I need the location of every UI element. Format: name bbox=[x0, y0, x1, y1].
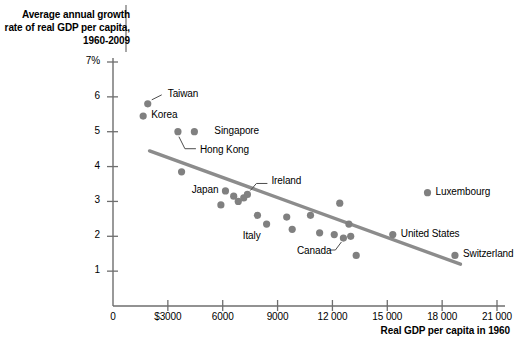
point-label: Ireland bbox=[271, 175, 301, 186]
data-point bbox=[222, 187, 229, 194]
x-tick-label: 12 000 bbox=[302, 311, 362, 322]
data-point bbox=[244, 191, 251, 198]
point-label: Japan bbox=[192, 184, 219, 195]
data-point bbox=[331, 231, 338, 238]
x-tick-label: 0 bbox=[83, 311, 143, 322]
point-label: Singapore bbox=[214, 125, 259, 136]
chart-title: Average annual growth rate of real GDP p… bbox=[4, 8, 130, 47]
data-point bbox=[263, 220, 270, 227]
y-tick-label: 1 bbox=[66, 264, 100, 275]
data-point bbox=[389, 231, 396, 238]
x-tick-label: 6000 bbox=[193, 311, 253, 322]
data-point bbox=[307, 212, 314, 219]
data-point bbox=[140, 112, 147, 119]
data-point bbox=[347, 233, 354, 240]
x-tick-label: 18 000 bbox=[412, 311, 472, 322]
y-tick-label: 2 bbox=[66, 229, 100, 240]
x-tick-label: 9000 bbox=[248, 311, 308, 322]
point-label: Canada bbox=[297, 245, 331, 256]
data-point bbox=[345, 220, 352, 227]
data-point bbox=[289, 226, 296, 233]
point-label: Taiwan bbox=[168, 88, 199, 99]
data-point bbox=[340, 234, 347, 241]
point-label: United States bbox=[401, 228, 460, 239]
data-point bbox=[191, 128, 198, 135]
x-tick-label: $3000 bbox=[138, 311, 198, 322]
point-label: Switzerland bbox=[463, 248, 514, 259]
data-point bbox=[144, 100, 151, 107]
data-point bbox=[353, 252, 360, 259]
y-tick-label: 6 bbox=[66, 90, 100, 101]
scatter-plot bbox=[0, 0, 518, 353]
y-tick-label: 5 bbox=[66, 125, 100, 136]
y-tick-label: 7% bbox=[66, 55, 100, 66]
data-point bbox=[254, 212, 261, 219]
point-label: Korea bbox=[151, 109, 177, 120]
x-axis-title: Real GDP per capita in 1960 bbox=[381, 325, 510, 336]
data-point bbox=[217, 201, 224, 208]
x-tick-label: 15 000 bbox=[357, 311, 417, 322]
data-point bbox=[174, 128, 181, 135]
y-tick-label: 4 bbox=[66, 160, 100, 171]
x-tick-label: 21 000 bbox=[467, 311, 518, 322]
data-point bbox=[178, 168, 185, 175]
point-label: Luxembourg bbox=[436, 186, 491, 197]
point-label: Italy bbox=[243, 230, 261, 241]
data-point bbox=[316, 229, 323, 236]
axes bbox=[113, 5, 505, 306]
data-point bbox=[451, 252, 458, 259]
data-point bbox=[424, 189, 431, 196]
data-point bbox=[283, 214, 290, 221]
data-point bbox=[336, 200, 343, 207]
y-tick-label: 3 bbox=[66, 194, 100, 205]
point-label: Hong Kong bbox=[200, 144, 249, 155]
